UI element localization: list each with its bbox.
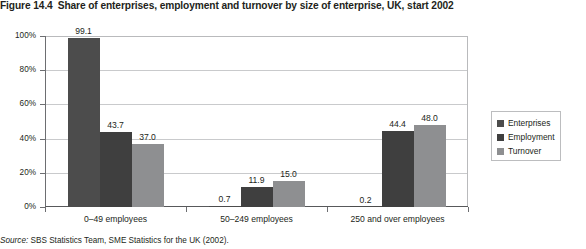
figure-title-text: Share of enterprises, employment and tur… bbox=[58, 0, 454, 11]
bar-value-label: 48.0 bbox=[408, 114, 452, 123]
source-prefix: Source: bbox=[0, 236, 28, 245]
legend-item-enterprises[interactable]: Enterprises bbox=[497, 116, 560, 130]
x-category-label-2: 250 and over employees bbox=[327, 214, 468, 225]
figure-title: Figure 14.4Share of enterprises, employm… bbox=[0, 0, 586, 14]
legend-swatch-icon bbox=[497, 148, 504, 155]
bar-value-label: 0.2 bbox=[344, 196, 388, 205]
legend-item-turnover[interactable]: Turnover bbox=[497, 144, 560, 158]
bar-chart: 0%20%40%60%80%100% 99.143.737.00.711.915… bbox=[0, 16, 586, 230]
legend-swatch-icon bbox=[497, 120, 504, 127]
legend-label: Enterprises bbox=[508, 119, 550, 128]
bar-turnover-1 bbox=[273, 181, 305, 207]
x-category-label-1: 50–249 employees bbox=[186, 214, 327, 225]
x-tick-mark bbox=[45, 207, 46, 212]
source-note: Source: SBS Statistics Team, SME Statist… bbox=[0, 236, 229, 245]
legend-item-employment[interactable]: Employment bbox=[497, 130, 560, 144]
y-tick-label: 0% bbox=[2, 203, 36, 211]
bar-turnover-0 bbox=[132, 144, 164, 207]
x-tick-mark bbox=[186, 207, 187, 212]
bar-turnover-2 bbox=[414, 125, 446, 207]
x-category-label-0: 0–49 employees bbox=[45, 214, 186, 225]
bar-value-label: 15.0 bbox=[267, 170, 311, 179]
x-tick-mark bbox=[468, 207, 469, 212]
y-tick-label: 100% bbox=[2, 32, 36, 40]
y-tick-label: 60% bbox=[2, 100, 36, 108]
bar-value-label: 37.0 bbox=[126, 133, 170, 142]
y-tick-label: 40% bbox=[2, 135, 36, 143]
y-tick-label: 80% bbox=[2, 66, 36, 74]
bar-value-label: 43.7 bbox=[94, 121, 138, 130]
bar-enterprises-2 bbox=[350, 206, 382, 207]
bar-enterprises-1 bbox=[209, 206, 241, 207]
source-text: SBS Statistics Team, SME Statistics for … bbox=[28, 236, 229, 245]
bar-value-label: 99.1 bbox=[62, 27, 106, 36]
legend-swatch-icon bbox=[497, 134, 504, 141]
x-tick-mark bbox=[327, 207, 328, 212]
figure-number: Figure 14.4 bbox=[0, 0, 53, 11]
y-tick-label: 20% bbox=[2, 169, 36, 177]
legend-label: Employment bbox=[508, 133, 555, 142]
legend-label: Turnover bbox=[508, 147, 541, 156]
chart-legend: EnterprisesEmploymentTurnover bbox=[491, 111, 561, 161]
bar-value-label: 0.7 bbox=[203, 195, 247, 204]
bar-employment-0 bbox=[100, 132, 132, 207]
